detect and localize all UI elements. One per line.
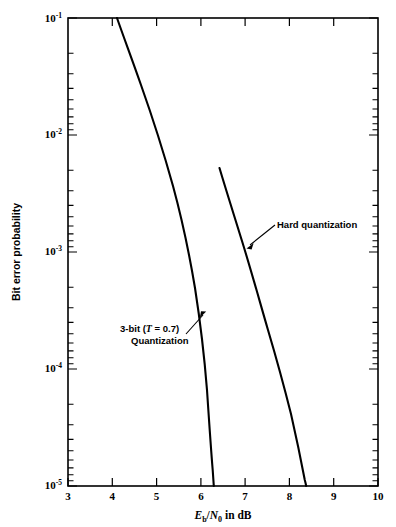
- x-tick-label-9: 9: [331, 490, 337, 502]
- x-axis-major-ticks-top: [112, 18, 333, 26]
- annotation-3bit-quantization-arrowhead: [200, 311, 206, 318]
- x-tick-label-5: 5: [154, 490, 160, 502]
- annotation-3bit-quantization-line1: 3-bit (T = 0.7): [120, 323, 179, 334]
- curve-3bit-quantization: [117, 18, 214, 486]
- y-tick-label-1e-2: 10-2: [45, 127, 62, 140]
- plot-frame: [68, 18, 378, 486]
- annotation-hard-quantization-leader: [250, 225, 275, 245]
- x-tick-label-7: 7: [242, 490, 248, 502]
- y-axis-minor-ticks-left: [68, 53, 74, 481]
- chart-figure: 10-1 10-2 10-3 10-4 10-5: [0, 0, 396, 527]
- y-tick-label-1e-5: 10-5: [45, 478, 62, 491]
- chart-canvas: 10-1 10-2 10-3 10-4 10-5: [0, 0, 396, 527]
- x-axis-tick-labels: 3 4 5 6 7 8 9 10: [65, 490, 384, 502]
- x-axis-major-ticks-bottom: [68, 478, 378, 486]
- x-tick-label-4: 4: [110, 490, 116, 502]
- annotation-hard-quantization-label: Hard quantization: [277, 219, 357, 230]
- x-tick-label-6: 6: [198, 490, 204, 502]
- curve-hard-quantization: [220, 168, 307, 486]
- y-tick-label-1e-4: 10-4: [45, 361, 62, 374]
- y-tick-label-1e-1: 10-1: [45, 11, 62, 24]
- x-tick-label-3: 3: [65, 490, 71, 502]
- y-axis-tick-labels: 10-1 10-2 10-3 10-4 10-5: [45, 11, 62, 491]
- y-axis-title: Bit error probability: [10, 203, 22, 301]
- x-axis-title: Eb/N0 in dB: [193, 509, 251, 524]
- annotation-hard-quantization-arrowhead: [247, 243, 254, 249]
- annotation-3bit-quantization-line2: Quantization: [131, 335, 189, 346]
- y-tick-label-1e-3: 10-3: [45, 244, 62, 257]
- annotation-3bit-quantization: 3-bit (T = 0.7) Quantization: [120, 311, 206, 346]
- x-tick-label-8: 8: [287, 490, 293, 502]
- annotation-hard-quantization: Hard quantization: [247, 219, 358, 250]
- y-axis-minor-ticks-right: [373, 53, 379, 481]
- x-tick-label-10: 10: [373, 490, 385, 502]
